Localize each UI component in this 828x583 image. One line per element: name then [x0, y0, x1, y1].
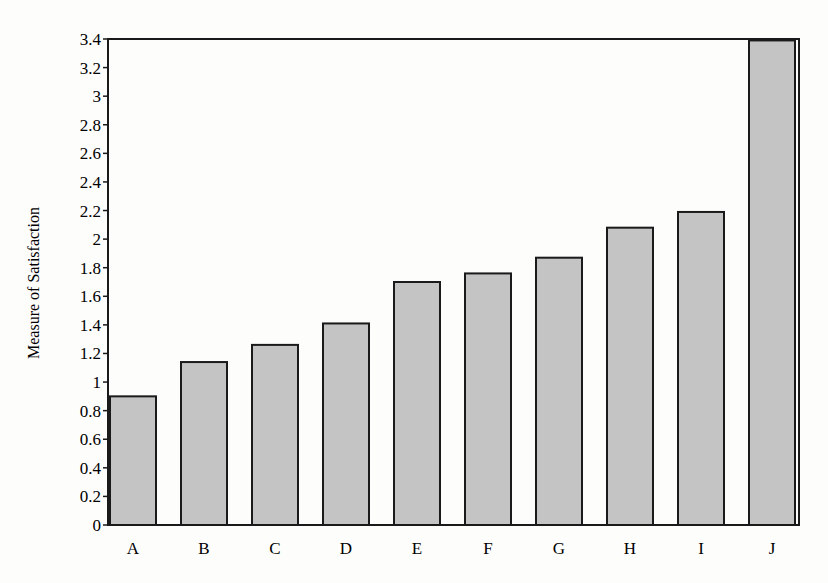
y-tick-label: 2.6 [80, 144, 101, 163]
x-axis-labels: ABCDEFGHIJ [127, 539, 776, 558]
x-category-label: H [624, 539, 636, 558]
bar-j [749, 40, 795, 525]
bar-d [323, 323, 369, 525]
x-category-label: G [553, 539, 565, 558]
bar-f [465, 273, 511, 525]
y-axis-ticks: 00.20.40.60.811.21.41.61.822.22.42.62.83… [80, 30, 108, 535]
x-category-label: C [269, 539, 280, 558]
x-category-label: A [127, 539, 140, 558]
y-tick-label: 1.6 [80, 287, 101, 306]
bar-a [110, 396, 156, 525]
bar-e [394, 282, 440, 525]
bar-c [252, 345, 298, 525]
y-tick-label: 3.4 [80, 30, 102, 49]
y-tick-label: 2 [93, 230, 102, 249]
y-tick-label: 0.6 [80, 430, 101, 449]
y-tick-label: 2.8 [80, 116, 101, 135]
x-category-label: I [698, 539, 704, 558]
y-tick-label: 2.2 [80, 202, 101, 221]
bar-series [110, 40, 795, 525]
bar-i [678, 212, 724, 525]
y-tick-label: 1.2 [80, 344, 101, 363]
y-axis-title: Measure of Satisfaction [25, 207, 42, 359]
y-tick-label: 3.2 [80, 59, 101, 78]
bar-b [181, 362, 227, 525]
y-tick-label: 0.4 [80, 459, 102, 478]
x-category-label: D [340, 539, 352, 558]
y-tick-label: 2.4 [80, 173, 102, 192]
y-tick-label: 1.8 [80, 259, 101, 278]
y-tick-label: 3 [93, 87, 102, 106]
x-category-label: B [198, 539, 209, 558]
y-tick-label: 1.4 [80, 316, 102, 335]
bar-h [607, 228, 653, 525]
y-tick-label: 0.8 [80, 402, 101, 421]
x-category-label: J [769, 539, 776, 558]
x-category-label: E [412, 539, 422, 558]
bar-g [536, 258, 582, 525]
y-tick-label: 1 [93, 373, 102, 392]
bar-chart: 00.20.40.60.811.21.41.61.822.22.42.62.83… [0, 0, 828, 583]
y-tick-label: 0 [93, 516, 102, 535]
x-category-label: F [483, 539, 492, 558]
y-tick-label: 0.2 [80, 487, 101, 506]
